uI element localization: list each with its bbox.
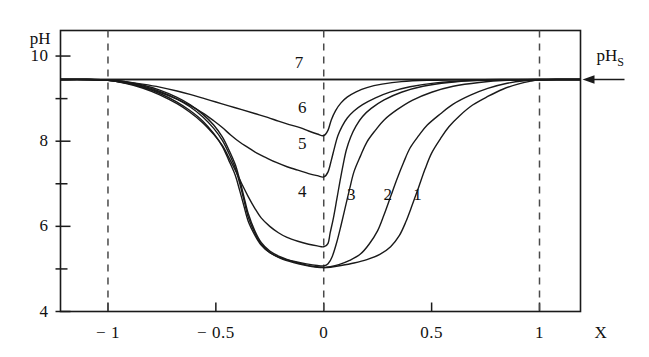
x-tick-label-3: 0.5 bbox=[420, 323, 443, 343]
x-tick-label-4: 1 bbox=[535, 323, 544, 343]
curve-6 bbox=[61, 79, 581, 135]
curve-annotation-1: 1 bbox=[413, 185, 422, 205]
curve-annotation-2: 2 bbox=[384, 185, 393, 205]
x-tick-label-1: − 0.5 bbox=[197, 323, 235, 343]
chart-plot-area bbox=[0, 0, 649, 357]
curves-group bbox=[61, 79, 581, 267]
reference-line-label-subscript: S bbox=[617, 55, 624, 69]
curve-annotation-6: 6 bbox=[298, 98, 307, 118]
y-tick-label-10: 10 bbox=[31, 46, 49, 66]
curve-4 bbox=[61, 79, 581, 247]
y-tick-label-4: 4 bbox=[40, 302, 49, 322]
reference-arrow-head-0 bbox=[583, 75, 595, 83]
curve-annotation-3: 3 bbox=[347, 185, 356, 205]
y-tick-label-8: 8 bbox=[40, 131, 49, 151]
x-tick-label-2: 0 bbox=[319, 323, 328, 343]
curve-1 bbox=[61, 79, 581, 267]
reference-line-label-text: pH bbox=[597, 47, 618, 66]
y-tick-label-6: 6 bbox=[40, 216, 49, 236]
curve-annotation-7: 7 bbox=[295, 53, 304, 73]
curve-annotation-5: 5 bbox=[298, 134, 307, 154]
curve-annotation-4: 4 bbox=[298, 182, 307, 202]
chart-figure: 46810− 1− 0.500.51pHXpHS7654321 bbox=[0, 0, 649, 357]
curve-3 bbox=[61, 79, 581, 266]
curve-5 bbox=[61, 79, 581, 177]
reference-line-label-phs: pHS bbox=[597, 47, 624, 70]
plot-frame bbox=[61, 31, 581, 312]
x-tick-label-0: − 1 bbox=[96, 323, 120, 343]
curve-2 bbox=[61, 79, 581, 267]
x-axis-title: X bbox=[595, 323, 607, 343]
y-axis-title: pH bbox=[30, 29, 51, 49]
